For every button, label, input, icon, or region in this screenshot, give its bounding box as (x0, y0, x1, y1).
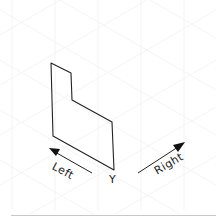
isometric-grid (0, 0, 216, 215)
bottom-divider (11, 215, 216, 216)
isometric-diagram (0, 0, 216, 217)
y-axis-label: Y (109, 173, 116, 186)
left-arrowhead-icon (49, 148, 60, 156)
l-shape-face (51, 63, 114, 170)
